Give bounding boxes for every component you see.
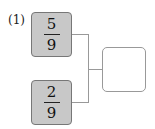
fraction-box-bottom: 2 9 [31, 80, 72, 125]
numerator: 5 [32, 16, 71, 32]
fraction-box-top: 5 9 [31, 12, 72, 57]
denominator: 9 [32, 105, 71, 121]
denominator: 9 [32, 37, 71, 53]
problem-label: (1) [8, 13, 25, 27]
connector-middle [88, 69, 102, 70]
fraction-top: 5 9 [32, 16, 71, 53]
fraction-bar [44, 102, 60, 103]
numerator: 2 [32, 84, 71, 100]
connector-bottom [72, 102, 89, 103]
fraction-bottom: 2 9 [32, 84, 71, 121]
fraction-bar [44, 34, 60, 35]
connector-top [72, 34, 89, 35]
answer-box[interactable] [102, 47, 146, 92]
